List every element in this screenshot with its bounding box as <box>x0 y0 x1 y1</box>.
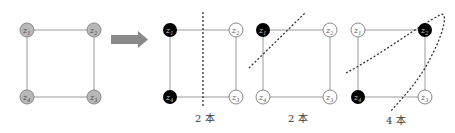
node-z2: z2 <box>229 23 243 37</box>
graph-cut-c: z1 z2 z4 z3 4 本 <box>346 14 444 126</box>
node-z4: z4 <box>20 90 34 104</box>
graph-original: z1 z2 z4 z3 <box>20 23 101 104</box>
node-z2: z2 <box>418 23 432 37</box>
node-z2: z2 <box>323 23 337 37</box>
node-z1: z1 <box>20 23 34 37</box>
max-cut-diagram: z1 z2 z4 z3 z1 z2 z4 z3 2 本 z1 z2 <box>0 0 455 133</box>
cut-count-caption: 4 本 <box>386 114 406 126</box>
node-z4: z4 <box>256 90 270 104</box>
node-z4: z4 <box>351 90 365 104</box>
graph-cut-b: z1 z2 z4 z3 2 本 <box>249 13 337 124</box>
node-z1: z1 <box>351 23 365 37</box>
edges <box>27 30 94 97</box>
node-z3: z3 <box>229 90 243 104</box>
cut-count-caption: 2 本 <box>195 112 215 124</box>
node-z1: z1 <box>163 23 177 37</box>
node-z4: z4 <box>163 90 177 104</box>
cut-line <box>249 13 305 68</box>
node-z3: z3 <box>418 90 432 104</box>
node-z3: z3 <box>323 90 337 104</box>
cut-count-caption: 2 本 <box>288 112 308 124</box>
node-z1: z1 <box>256 23 270 37</box>
graph-cut-a: z1 z2 z4 z3 2 本 <box>163 12 243 124</box>
node-z2: z2 <box>87 23 101 37</box>
node-z3: z3 <box>87 90 101 104</box>
right-arrow-icon <box>111 31 148 48</box>
